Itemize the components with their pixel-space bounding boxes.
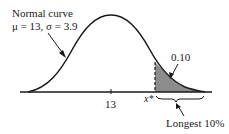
curve-label-params: μ = 13, σ = 3.9 [12,20,77,32]
area-label: 0.10 [171,51,190,63]
normal-distribution-figure: Normal curve μ = 13, σ = 3.9 0.10 13 x* … [0,0,229,134]
mean-tick-label: 13 [105,98,116,110]
curve-label-title: Normal curve [12,7,73,19]
x-star-label: x* [144,93,153,105]
shaded-tail-region [155,62,205,92]
area-label-arrow [172,64,178,75]
longest-10-bracket [156,96,204,102]
curve-label-arrowhead [59,50,66,58]
bracket-label: Longest 10% [166,117,224,129]
bracket-label-arrowhead [176,103,181,109]
